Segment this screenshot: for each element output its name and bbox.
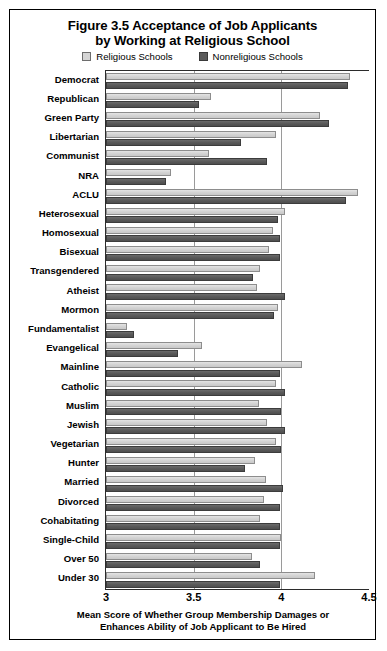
- category-label-heterosexual: Heterosexual: [39, 209, 99, 219]
- bar-nonreligious-transgendered: [106, 274, 253, 281]
- bar-religious-fundamentalist: [106, 323, 127, 330]
- legend-label-religious: Religious Schools: [96, 51, 172, 62]
- category-label-homosexual: Homosexual: [42, 228, 99, 238]
- category-label-married: Married: [64, 477, 99, 487]
- bar-religious-atheist: [106, 284, 257, 291]
- bar-nonreligious-democrat: [106, 82, 348, 89]
- bar-nonreligious-over-50: [106, 561, 260, 568]
- figure-title-line-2: by Working at Religious School: [10, 33, 375, 48]
- legend-label-nonreligious: Nonreligious Schools: [213, 51, 303, 62]
- bar-nonreligious-under-30: [106, 581, 280, 588]
- category-label-over-50: Over 50: [64, 554, 99, 564]
- category-label-nra: NRA: [78, 171, 99, 181]
- bar-nonreligious-fundamentalist: [106, 331, 134, 338]
- category-label-catholic: Catholic: [61, 382, 99, 392]
- bar-nonreligious-vegetarian: [106, 446, 281, 453]
- category-label-vegetarian: Vegetarian: [50, 439, 99, 449]
- bar-religious-muslim: [106, 400, 259, 407]
- figure-title: Figure 3.5 Acceptance of Job Applicants …: [10, 18, 375, 48]
- bar-religious-married: [106, 476, 266, 483]
- bar-religious-catholic: [106, 380, 276, 387]
- bar-nonreligious-married: [106, 485, 283, 492]
- x-axis-tick-labels: 33.544.5: [105, 591, 369, 605]
- bar-religious-bisexual: [106, 246, 269, 253]
- category-label-republican: Republican: [47, 94, 99, 104]
- category-label-fundamentalist: Fundamentalist: [28, 324, 99, 334]
- category-label-communist: Communist: [46, 151, 99, 161]
- category-label-atheist: Atheist: [66, 286, 99, 296]
- bar-religious-heterosexual: [106, 208, 285, 215]
- category-label-bisexual: Bisexual: [60, 247, 99, 257]
- bar-religious-aclu: [106, 189, 358, 196]
- bar-religious-green-party: [106, 112, 320, 119]
- bar-religious-over-50: [106, 553, 252, 560]
- bar-religious-democrat: [106, 73, 350, 80]
- figure-frame: Figure 3.5 Acceptance of Job Applicants …: [9, 9, 376, 640]
- bar-religious-cohabitating: [106, 515, 260, 522]
- category-label-hunter: Hunter: [68, 458, 99, 468]
- chart-legend: Religious Schools Nonreligious Schools: [10, 51, 375, 62]
- category-label-green-party: Green Party: [45, 113, 99, 123]
- x-tick-label-4-5: 4.5: [361, 591, 376, 603]
- category-label-aclu: ACLU: [72, 190, 99, 200]
- plot-area: [105, 70, 369, 590]
- bar-nonreligious-nra: [106, 178, 166, 185]
- category-label-democrat: Democrat: [55, 75, 99, 85]
- category-label-jewish: Jewish: [67, 420, 99, 430]
- bar-nonreligious-republican: [106, 101, 199, 108]
- x-axis-title-line-1: Mean Score of Whether Group Membership D…: [28, 609, 378, 621]
- bar-nonreligious-green-party: [106, 120, 329, 127]
- bar-nonreligious-heterosexual: [106, 216, 278, 223]
- bar-religious-hunter: [106, 457, 255, 464]
- bar-religious-vegetarian: [106, 438, 276, 445]
- bar-nonreligious-divorced: [106, 504, 280, 511]
- bar-nonreligious-atheist: [106, 293, 285, 300]
- category-label-cohabitating: Cohabitating: [40, 516, 99, 526]
- bar-religious-under-30: [106, 572, 315, 579]
- legend-swatch-icon-religious: [82, 52, 91, 61]
- category-axis: DemocratRepublicanGreen PartyLibertarian…: [10, 67, 104, 597]
- bar-nonreligious-mainline: [106, 370, 280, 377]
- bar-religious-evangelical: [106, 342, 202, 349]
- category-label-libertarian: Libertarian: [49, 132, 99, 142]
- bar-nonreligious-single-child: [106, 542, 280, 549]
- bar-religious-nra: [106, 169, 171, 176]
- bar-nonreligious-muslim: [106, 408, 281, 415]
- gridline-3-5: [194, 71, 195, 589]
- bar-religious-communist: [106, 150, 209, 157]
- legend-swatch-icon-nonreligious: [199, 52, 208, 61]
- bar-religious-republican: [106, 93, 211, 100]
- x-axis-title-line-2: Enhances Ability of Job Applicant to Be …: [28, 621, 378, 633]
- bar-nonreligious-cohabitating: [106, 523, 280, 530]
- bar-religious-mainline: [106, 361, 302, 368]
- bar-nonreligious-catholic: [106, 389, 285, 396]
- bar-nonreligious-mormon: [106, 312, 274, 319]
- bar-nonreligious-communist: [106, 158, 267, 165]
- plot-wrapper: DemocratRepublicanGreen PartyLibertarian…: [10, 67, 377, 597]
- bar-nonreligious-hunter: [106, 465, 245, 472]
- category-label-transgendered: Transgendered: [30, 266, 99, 276]
- category-label-muslim: Muslim: [66, 401, 99, 411]
- bar-nonreligious-evangelical: [106, 350, 178, 357]
- category-label-evangelical: Evangelical: [46, 343, 99, 353]
- bar-religious-transgendered: [106, 265, 260, 272]
- bar-nonreligious-aclu: [106, 197, 346, 204]
- bar-religious-homosexual: [106, 227, 273, 234]
- x-tick-label-3: 3: [103, 591, 109, 603]
- x-tick-label-3-5: 3.5: [186, 591, 201, 603]
- category-label-single-child: Single-Child: [43, 535, 99, 545]
- bar-nonreligious-jewish: [106, 427, 285, 434]
- legend-item-nonreligious-schools: Nonreligious Schools: [199, 51, 303, 62]
- category-label-mainline: Mainline: [61, 362, 99, 372]
- x-tick-label-4: 4: [278, 591, 284, 603]
- bar-religious-mormon: [106, 304, 278, 311]
- category-label-divorced: Divorced: [58, 497, 99, 507]
- gridline-4: [281, 71, 282, 589]
- figure-title-line-1: Figure 3.5 Acceptance of Job Applicants: [10, 18, 375, 33]
- category-label-under-30: Under 30: [58, 573, 99, 583]
- bar-religious-jewish: [106, 419, 267, 426]
- bar-nonreligious-homosexual: [106, 235, 280, 242]
- bar-nonreligious-bisexual: [106, 254, 280, 261]
- legend-item-religious-schools: Religious Schools: [82, 51, 172, 62]
- category-label-mormon: Mormon: [61, 305, 99, 315]
